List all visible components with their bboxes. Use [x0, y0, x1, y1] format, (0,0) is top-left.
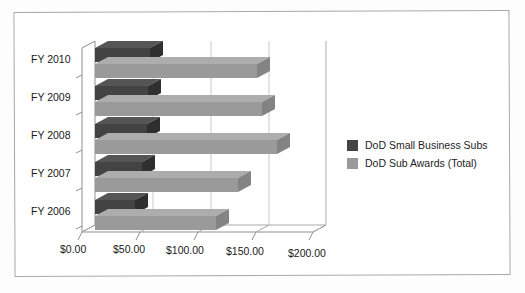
xtick-label-150: $150.00	[226, 245, 264, 257]
bar-group-fy-2007	[95, 155, 251, 192]
legend-swatch-dark	[347, 140, 358, 151]
category-label-fy-2007: FY 2007	[31, 167, 71, 179]
category-label-fy-2008: FY 2008	[31, 129, 71, 141]
xtick-label-200: $200.00	[288, 247, 326, 259]
legend-item-dod-small-business-subs: DoD Small Business Subs	[347, 139, 507, 151]
bar-group-fy-2010	[95, 41, 270, 78]
bar-group-fy-2006	[95, 193, 229, 230]
category-label-fy-2006: FY 2006	[31, 205, 71, 217]
legend-label-dod-sub-awards-total: DoD Sub Awards (Total)	[365, 157, 477, 169]
xtick-label-50: $50.00	[113, 243, 145, 255]
xtick-label-0: $0.00	[60, 243, 86, 255]
chart-legend: DoD Small Business Subs DoD Sub Awards (…	[347, 139, 507, 175]
legend-label-dod-small-business-subs: DoD Small Business Subs	[365, 139, 488, 151]
bar-group-fy-2009	[95, 79, 275, 116]
category-label-fy-2010: FY 2010	[31, 53, 71, 65]
legend-item-dod-sub-awards-total: DoD Sub Awards (Total)	[347, 157, 507, 169]
legend-swatch-light	[347, 158, 358, 169]
bar-group-fy-2008	[95, 117, 290, 154]
category-label-fy-2009: FY 2009	[31, 91, 71, 103]
xtick-label-100: $100.00	[166, 244, 204, 256]
scanned-page: FY 2010 FY 2009 FY 2008 FY 2007 FY 2006 …	[0, 0, 525, 293]
